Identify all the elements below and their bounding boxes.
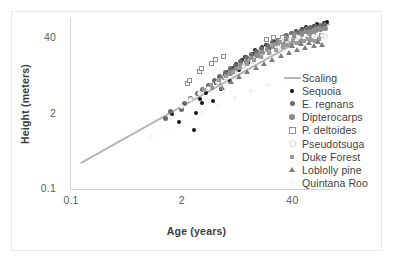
data-point: [149, 134, 153, 138]
data-point: [245, 62, 249, 66]
legend-marker-filled-circle-icon: [282, 84, 302, 97]
legend-item-6[interactable]: Duke Forest: [282, 150, 386, 163]
legend-marker-faint-circle-icon: [282, 177, 302, 190]
data-point: [216, 103, 220, 107]
data-point: [271, 35, 276, 40]
data-point: [271, 43, 275, 47]
data-point: [188, 97, 193, 102]
data-point: [259, 55, 263, 59]
data-point: [306, 40, 312, 45]
legend-label: E. regnans: [302, 98, 354, 110]
data-point: [213, 57, 218, 62]
legend-label: Scaling: [302, 72, 337, 84]
data-point: [200, 101, 204, 105]
data-point: [194, 111, 198, 115]
data-point: [219, 85, 225, 90]
data-point: [202, 88, 206, 92]
data-point: [199, 66, 204, 71]
data-point: [228, 79, 234, 84]
legend-label: Sequoia: [302, 85, 341, 97]
legend-label: Quintana Roo: [302, 177, 368, 189]
data-point: [244, 69, 250, 74]
data-point: [252, 58, 256, 62]
chart-legend: ScalingSequoiaE. regnansDipterocarpsP. d…: [282, 71, 386, 190]
data-point: [322, 26, 328, 32]
data-point: [224, 74, 228, 78]
chart-figure: Height (meters) 0.1240 0.1240 Age (years…: [0, 0, 393, 262]
data-point: [274, 48, 278, 52]
legend-item-8[interactable]: Quintana Roo: [282, 177, 386, 190]
legend-marker-filled-circle-icon: [282, 111, 302, 124]
x-axis-title: Age (years): [0, 225, 393, 237]
data-point: [253, 65, 259, 70]
legend-label: P. deltoides: [302, 124, 357, 136]
data-point: [269, 57, 275, 62]
data-point: [236, 74, 242, 79]
data-point: [179, 104, 184, 109]
data-point: [323, 34, 328, 39]
legend-label: Loblolly pine: [302, 164, 362, 176]
y-axis-title-wrap: Height (meters): [14, 0, 36, 208]
legend-marker-filled-circle-icon: [282, 97, 302, 110]
data-point: [166, 126, 170, 130]
legend-marker-open-square-icon: [282, 124, 302, 137]
legend-item-7[interactable]: Loblolly pine: [282, 163, 386, 176]
y-axis-title: Height (meters): [19, 64, 31, 144]
data-point: [278, 53, 284, 58]
legend-label: Pseudotsuga: [302, 138, 364, 150]
data-point: [187, 78, 192, 83]
data-point: [298, 41, 304, 46]
legend-label: Duke Forest: [302, 151, 360, 163]
data-point: [221, 54, 226, 59]
data-point: [163, 116, 168, 121]
data-point: [261, 61, 267, 66]
data-point: [217, 78, 221, 82]
legend-marker-filled-triangle-icon: [282, 163, 302, 176]
data-point: [177, 120, 181, 124]
data-point: [284, 43, 288, 47]
data-point: [267, 51, 271, 55]
y-tick-label-1: 2: [50, 107, 56, 119]
data-point: [182, 118, 186, 122]
data-point: [264, 37, 269, 42]
legend-marker-open-circle-icon: [282, 137, 302, 150]
data-point: [231, 70, 235, 74]
data-point: [278, 40, 282, 44]
legend-item-3[interactable]: Dipterocarps: [282, 111, 386, 124]
data-point: [249, 89, 253, 93]
y-tick-label-0: 0.1: [41, 182, 56, 194]
data-point: [197, 91, 202, 96]
data-point: [286, 50, 292, 55]
data-point: [315, 39, 321, 44]
legend-marker-filled-square-icon: [282, 150, 302, 163]
data-point: [238, 66, 242, 70]
data-point: [211, 99, 215, 103]
legend-item-4[interactable]: P. deltoides: [282, 124, 386, 137]
data-point: [289, 43, 295, 48]
legend-item-2[interactable]: E. regnans: [282, 97, 386, 110]
data-point: [233, 96, 237, 100]
y-tick-label-2: 40: [44, 31, 56, 43]
data-point: [294, 47, 300, 52]
x-tick-label-1: 2: [162, 194, 202, 206]
legend-item-0[interactable]: Scaling: [282, 71, 386, 84]
legend-marker-line-icon: [282, 71, 302, 84]
data-point: [266, 83, 270, 87]
x-tick-label-2: 40: [272, 194, 312, 206]
x-tick-label-0: 0.1: [51, 194, 91, 206]
data-point: [199, 111, 203, 115]
data-point: [192, 128, 196, 132]
data-point: [209, 83, 213, 87]
legend-label: Dipterocarps: [302, 111, 363, 123]
legend-item-1[interactable]: Sequoia: [282, 84, 386, 97]
legend-item-5[interactable]: Pseudotsuga: [282, 137, 386, 150]
